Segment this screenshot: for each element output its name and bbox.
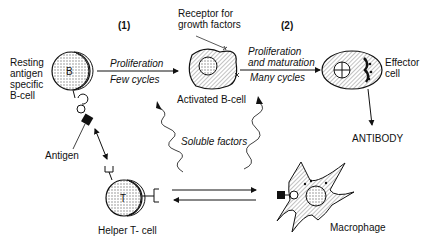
arrow-1-bottom-label: Few cycles bbox=[110, 74, 159, 85]
antigen-tcell-arrow bbox=[95, 129, 107, 159]
effector-cell-icon bbox=[322, 51, 382, 89]
antigen-label: Antigen bbox=[45, 150, 79, 161]
antigen-pointer-line bbox=[73, 124, 85, 149]
antibody-label: ANTIBODY bbox=[352, 133, 403, 144]
b-cell-receptor-icon bbox=[73, 90, 88, 113]
macrophage-label: Macrophage bbox=[330, 222, 386, 233]
antigen-icon bbox=[81, 114, 93, 126]
b-cell-glyph: B bbox=[66, 66, 73, 77]
diagram-canvas bbox=[0, 0, 428, 244]
activated-b-cell-label: Activated B-cell bbox=[177, 94, 246, 105]
arrow-1-top-label: Proliferation bbox=[110, 58, 163, 69]
resting-b-cell-label: Resting antigen specific B-cell bbox=[10, 57, 44, 101]
receptor-label: Receptor for growth factors bbox=[178, 8, 241, 30]
soluble-factor-arrow-right bbox=[244, 96, 263, 169]
macrophage-receptor-icon bbox=[290, 191, 298, 199]
receptor-pointer-line bbox=[196, 36, 224, 48]
arrow-2-bottom-label: Many cycles bbox=[250, 72, 305, 83]
t-cell-glyph: T bbox=[120, 193, 126, 204]
step-2-label: (2) bbox=[281, 20, 293, 31]
effector-cell-label: Effector cell bbox=[385, 57, 419, 79]
t-cell-receptor-icon bbox=[105, 166, 113, 180]
activated-b-cell-icon bbox=[189, 46, 239, 89]
soluble-factor-arrow-left bbox=[156, 101, 183, 172]
macrophage-antigen-icon bbox=[277, 191, 285, 199]
soluble-factors-label: Soluble factors bbox=[181, 136, 247, 147]
b-cell-activation-diagram: (1) (2) Resting antigen specific B-cell … bbox=[0, 0, 428, 244]
arrow-2-top-label: Proliferation and maturation bbox=[248, 46, 315, 68]
antibody-arrow bbox=[368, 89, 372, 125]
helper-t-cell-label: Helper T- cell bbox=[98, 225, 157, 236]
step-1-label: (1) bbox=[118, 20, 130, 31]
